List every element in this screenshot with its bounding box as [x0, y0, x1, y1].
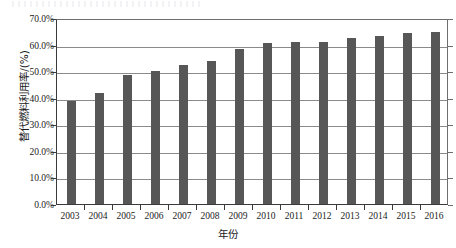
y-axis-tick-mark [51, 178, 56, 179]
chart-figure: 替代燃料利用率/(%) 0.0%10.0%20.0%30.0%40.0%50.0… [0, 0, 456, 248]
y-axis-tick-label: 40.0% [18, 94, 54, 104]
y-axis-tick-label: 70.0% [18, 14, 54, 24]
y-axis-tick-mark-right [448, 178, 453, 179]
bar [235, 49, 244, 204]
y-axis-tick-label: 50.0% [18, 67, 54, 77]
bar [207, 61, 216, 204]
bar-series [57, 20, 447, 204]
y-axis-tick-mark [51, 46, 56, 47]
y-axis-tick-mark [51, 99, 56, 100]
bar [123, 75, 132, 204]
y-axis-tick-mark-right [448, 205, 453, 206]
y-axis-tick-mark [51, 152, 56, 153]
bar [291, 42, 300, 204]
bar [263, 43, 272, 204]
bar [179, 65, 188, 204]
y-axis-tick-mark [51, 19, 56, 20]
y-axis-tick-mark-right [448, 152, 453, 153]
bar [431, 32, 440, 204]
y-axis-tick-label: 0.0% [18, 200, 54, 210]
x-axis-title: 年份 [0, 226, 456, 241]
bar [347, 38, 356, 204]
y-axis-tick-mark-right [448, 125, 453, 126]
y-axis-tick-label: 20.0% [18, 147, 54, 157]
bar [319, 42, 328, 204]
y-axis-tick-label: 60.0% [18, 41, 54, 51]
y-axis-tick-labels: 0.0%10.0%20.0%30.0%40.0%50.0%60.0%70.0% [18, 0, 54, 248]
bar [95, 93, 104, 204]
bar [403, 33, 412, 204]
x-axis-tick-label: 2016 [417, 210, 451, 222]
y-axis-tick-label: 30.0% [18, 120, 54, 130]
y-axis-tick-label: 10.0% [18, 173, 54, 183]
bar [67, 101, 76, 204]
y-axis-tick-mark [51, 72, 56, 73]
y-axis-tick-mark-right [448, 46, 453, 47]
bar [375, 36, 384, 204]
bar [151, 71, 160, 204]
y-axis-tick-mark-right [448, 99, 453, 100]
y-axis-tick-mark-right [448, 72, 453, 73]
plot-area [56, 19, 448, 205]
y-axis-tick-mark-right [448, 19, 453, 20]
y-axis-tick-mark [51, 125, 56, 126]
x-axis-tick-labels: 2003200420052006200720082009201020112012… [56, 210, 448, 224]
